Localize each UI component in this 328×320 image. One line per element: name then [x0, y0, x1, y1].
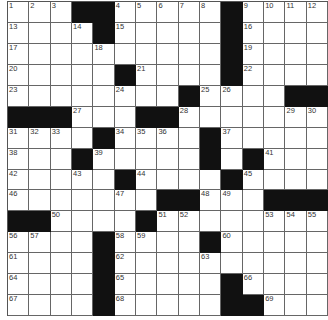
- crossword-cell[interactable]: 24: [115, 86, 136, 107]
- crossword-cell[interactable]: [93, 211, 114, 232]
- crossword-cell[interactable]: [51, 274, 72, 295]
- crossword-cell[interactable]: 68: [115, 295, 136, 316]
- crossword-cell[interactable]: 64: [8, 274, 29, 295]
- crossword-cell[interactable]: [264, 44, 285, 65]
- crossword-cell[interactable]: 51: [157, 211, 178, 232]
- crossword-cell[interactable]: [243, 86, 264, 107]
- crossword-cell[interactable]: [93, 86, 114, 107]
- crossword-cell[interactable]: [264, 128, 285, 149]
- crossword-cell[interactable]: [157, 44, 178, 65]
- crossword-cell[interactable]: 44: [136, 170, 157, 191]
- crossword-cell[interactable]: 21: [136, 65, 157, 86]
- crossword-cell[interactable]: [51, 170, 72, 191]
- crossword-cell[interactable]: [285, 44, 306, 65]
- crossword-cell[interactable]: [72, 232, 93, 253]
- crossword-cell[interactable]: [179, 65, 200, 86]
- crossword-cell[interactable]: [51, 190, 72, 211]
- crossword-cell[interactable]: 33: [51, 128, 72, 149]
- crossword-cell[interactable]: 54: [285, 211, 306, 232]
- crossword-cell[interactable]: [285, 253, 306, 274]
- crossword-cell[interactable]: [29, 274, 50, 295]
- crossword-cell[interactable]: 28: [179, 107, 200, 128]
- crossword-cell[interactable]: 19: [243, 44, 264, 65]
- crossword-cell[interactable]: [29, 253, 50, 274]
- crossword-cell[interactable]: [179, 149, 200, 170]
- crossword-cell[interactable]: [264, 65, 285, 86]
- crossword-cell[interactable]: 59: [136, 232, 157, 253]
- crossword-cell[interactable]: [115, 211, 136, 232]
- crossword-cell[interactable]: [285, 232, 306, 253]
- crossword-cell[interactable]: [157, 253, 178, 274]
- crossword-cell[interactable]: [243, 128, 264, 149]
- crossword-cell[interactable]: [136, 190, 157, 211]
- crossword-cell[interactable]: [29, 170, 50, 191]
- crossword-cell[interactable]: 47: [115, 190, 136, 211]
- crossword-cell[interactable]: 62: [115, 253, 136, 274]
- crossword-cell[interactable]: [179, 23, 200, 44]
- crossword-cell[interactable]: [157, 170, 178, 191]
- crossword-cell[interactable]: [136, 274, 157, 295]
- crossword-cell[interactable]: 56: [8, 232, 29, 253]
- crossword-cell[interactable]: 46: [8, 190, 29, 211]
- crossword-cell[interactable]: [29, 295, 50, 316]
- crossword-cell[interactable]: [243, 211, 264, 232]
- crossword-cell[interactable]: [307, 232, 328, 253]
- crossword-cell[interactable]: 11: [285, 2, 306, 23]
- crossword-cell[interactable]: [51, 253, 72, 274]
- crossword-cell[interactable]: [29, 44, 50, 65]
- crossword-cell[interactable]: [29, 65, 50, 86]
- crossword-cell[interactable]: [285, 128, 306, 149]
- crossword-cell[interactable]: [285, 65, 306, 86]
- crossword-cell[interactable]: [72, 65, 93, 86]
- crossword-cell[interactable]: [157, 232, 178, 253]
- crossword-cell[interactable]: 43: [72, 170, 93, 191]
- crossword-cell[interactable]: 14: [72, 23, 93, 44]
- crossword-cell[interactable]: [307, 23, 328, 44]
- crossword-cell[interactable]: [72, 274, 93, 295]
- crossword-cell[interactable]: 27: [72, 107, 93, 128]
- crossword-cell[interactable]: [264, 23, 285, 44]
- crossword-cell[interactable]: [51, 232, 72, 253]
- crossword-cell[interactable]: [307, 295, 328, 316]
- crossword-cell[interactable]: 38: [8, 149, 29, 170]
- crossword-cell[interactable]: [72, 86, 93, 107]
- crossword-cell[interactable]: [285, 149, 306, 170]
- crossword-cell[interactable]: 48: [200, 190, 221, 211]
- crossword-cell[interactable]: 69: [264, 295, 285, 316]
- crossword-cell[interactable]: [29, 86, 50, 107]
- crossword-cell[interactable]: 4: [115, 2, 136, 23]
- crossword-cell[interactable]: [243, 232, 264, 253]
- crossword-cell[interactable]: [221, 107, 242, 128]
- crossword-cell[interactable]: 55: [307, 211, 328, 232]
- crossword-cell[interactable]: 31: [8, 128, 29, 149]
- crossword-cell[interactable]: 2: [29, 2, 50, 23]
- crossword-cell[interactable]: [157, 274, 178, 295]
- crossword-cell[interactable]: 7: [179, 2, 200, 23]
- crossword-cell[interactable]: 10: [264, 2, 285, 23]
- crossword-cell[interactable]: [51, 65, 72, 86]
- crossword-cell[interactable]: [221, 211, 242, 232]
- crossword-cell[interactable]: [179, 295, 200, 316]
- crossword-cell[interactable]: 63: [200, 253, 221, 274]
- crossword-cell[interactable]: [93, 107, 114, 128]
- crossword-cell[interactable]: [115, 149, 136, 170]
- crossword-cell[interactable]: 53: [264, 211, 285, 232]
- crossword-cell[interactable]: [264, 274, 285, 295]
- crossword-cell[interactable]: [157, 23, 178, 44]
- crossword-cell[interactable]: [200, 107, 221, 128]
- crossword-cell[interactable]: 45: [243, 170, 264, 191]
- crossword-cell[interactable]: [307, 274, 328, 295]
- crossword-cell[interactable]: [243, 190, 264, 211]
- crossword-cell[interactable]: [72, 253, 93, 274]
- crossword-cell[interactable]: 9: [243, 2, 264, 23]
- crossword-cell[interactable]: [51, 44, 72, 65]
- crossword-cell[interactable]: 25: [200, 86, 221, 107]
- crossword-cell[interactable]: [264, 170, 285, 191]
- crossword-cell[interactable]: [307, 128, 328, 149]
- crossword-cell[interactable]: 66: [243, 274, 264, 295]
- crossword-cell[interactable]: [29, 149, 50, 170]
- crossword-cell[interactable]: [93, 170, 114, 191]
- crossword-cell[interactable]: [200, 274, 221, 295]
- crossword-cell[interactable]: [264, 86, 285, 107]
- crossword-cell[interactable]: [51, 149, 72, 170]
